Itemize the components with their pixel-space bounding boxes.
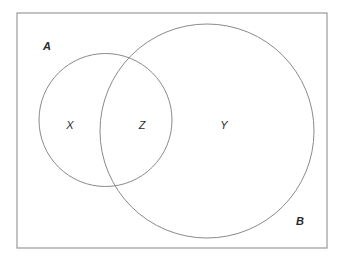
region-label-y: Y <box>220 119 228 131</box>
venn-diagram-canvas: A B X Z Y <box>0 0 342 261</box>
set-b-label: B <box>296 215 304 227</box>
region-label-z: Z <box>138 119 147 131</box>
region-label-x: X <box>65 119 74 131</box>
venn-diagram-figure: A B X Z Y <box>0 0 342 261</box>
universal-set-rectangle <box>17 13 327 248</box>
set-a-label: A <box>42 40 51 52</box>
